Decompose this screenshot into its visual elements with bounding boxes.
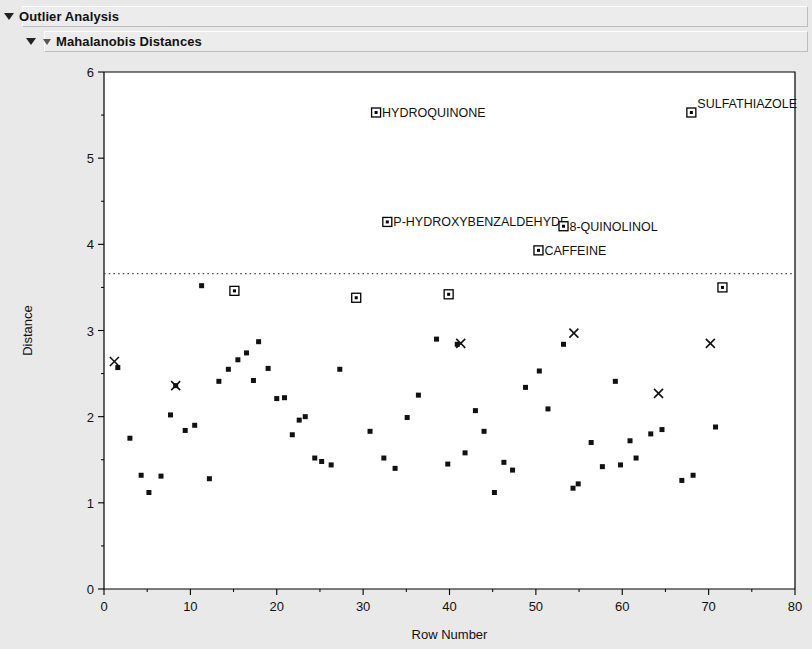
data-point (159, 474, 164, 479)
data-point (523, 385, 528, 390)
data-point (235, 357, 240, 362)
x-tick-label: 20 (270, 599, 284, 614)
data-point (282, 395, 287, 400)
data-point (244, 350, 249, 355)
outline-label-mahalanobis-distances: Mahalanobis Distances (56, 34, 202, 49)
data-point (648, 431, 653, 436)
data-point (571, 486, 576, 491)
x-tick-label: 30 (356, 599, 370, 614)
data-point (634, 456, 639, 461)
data-point (561, 342, 566, 347)
data-point (256, 339, 261, 344)
y-tick-label: 5 (87, 151, 94, 166)
data-point (368, 429, 373, 434)
x-axis-title: Row Number (412, 627, 489, 642)
data-point (319, 459, 324, 464)
data-point (226, 367, 231, 372)
data-point (659, 427, 664, 432)
data-point (434, 337, 439, 342)
data-point (679, 478, 684, 483)
data-point (127, 436, 132, 441)
data-point (613, 379, 618, 384)
outlier-marker-center (447, 293, 450, 296)
outlier-marker-center (721, 286, 724, 289)
disclosure-triangle-mahalanobis-distances[interactable] (26, 38, 36, 45)
data-point (199, 283, 204, 288)
x-tick-label: 70 (701, 599, 715, 614)
data-point (691, 473, 696, 478)
outline-label-outlier-analysis: Outlier Analysis (19, 9, 119, 24)
outlier-marker-center (690, 111, 693, 114)
data-point (329, 462, 334, 467)
data-point (274, 396, 279, 401)
data-point (146, 490, 151, 495)
data-point (416, 393, 421, 398)
outlier-marker-center (233, 289, 236, 292)
data-point (537, 368, 542, 373)
outlier-label: P-HYDROXYBENZALDEHYDE (393, 215, 568, 229)
y-tick-label: 0 (87, 582, 94, 597)
x-tick-label: 80 (788, 599, 802, 614)
data-point (337, 367, 342, 372)
outlier-label: SULFATHIAZOLE (697, 97, 797, 111)
data-point (576, 481, 581, 486)
data-point (251, 378, 256, 383)
outlier-label: HYDROQUINONE (382, 106, 485, 120)
outlier-marker-center (562, 225, 565, 228)
data-point (393, 466, 398, 471)
plot-area-background (104, 72, 795, 589)
outlier-marker-center (355, 296, 358, 299)
outlier-analysis-header-bar (22, 6, 808, 27)
data-point (492, 490, 497, 495)
x-tick-label: 40 (442, 599, 456, 614)
y-axis-title: Distance (20, 305, 35, 356)
data-point (510, 468, 515, 473)
data-point (473, 408, 478, 413)
outlier-analysis-window: Outlier Analysis Mahalanobis Distances 0… (0, 0, 812, 649)
data-point (618, 462, 623, 467)
x-tick-label: 10 (183, 599, 197, 614)
outline-row-mahalanobis-distances[interactable]: Mahalanobis Distances (26, 32, 202, 51)
data-point (713, 425, 718, 430)
outlier-label: CAFFEINE (544, 244, 606, 258)
mahalanobis-distances-scatter-plot: 012345601020304050607080Row NumberDistan… (0, 56, 812, 649)
data-point (183, 428, 188, 433)
data-point (139, 473, 144, 478)
data-point (628, 438, 633, 443)
data-point (297, 418, 302, 423)
scatter-svg: 012345601020304050607080Row NumberDistan… (0, 56, 812, 649)
x-tick-label: 0 (100, 599, 107, 614)
disclosure-triangle-outlier-analysis[interactable] (4, 13, 14, 20)
x-tick-label: 60 (615, 599, 629, 614)
outlier-marker-center (375, 111, 378, 114)
y-tick-label: 1 (87, 496, 94, 511)
data-point (266, 366, 271, 371)
y-tick-label: 4 (87, 237, 94, 252)
data-point (589, 440, 594, 445)
data-point (312, 456, 317, 461)
data-point (303, 414, 308, 419)
y-tick-label: 2 (87, 410, 94, 425)
data-point (216, 379, 221, 384)
popup-menu-icon[interactable] (41, 36, 52, 47)
data-point (192, 423, 197, 428)
data-point (405, 415, 410, 420)
outlier-label: 8-QUINOLINOL (570, 220, 658, 234)
data-point (545, 406, 550, 411)
outlier-marker-center (386, 220, 389, 223)
data-point (600, 464, 605, 469)
y-tick-label: 6 (87, 65, 94, 80)
data-point (445, 462, 450, 467)
outlier-marker-center (537, 249, 540, 252)
data-point (168, 412, 173, 417)
data-point (290, 432, 295, 437)
data-point (207, 476, 212, 481)
data-point (381, 456, 386, 461)
data-point (463, 450, 468, 455)
x-tick-label: 50 (529, 599, 543, 614)
data-point (482, 429, 487, 434)
y-tick-label: 3 (87, 324, 94, 339)
data-point (501, 460, 506, 465)
outline-row-outlier-analysis[interactable]: Outlier Analysis (4, 7, 119, 26)
